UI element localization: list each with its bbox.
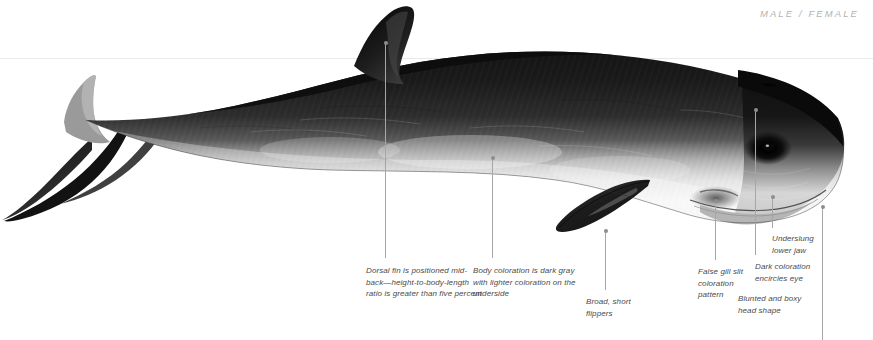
illustration-stage: MALE / FEMALE bbox=[0, 0, 873, 340]
eye bbox=[763, 142, 776, 151]
leader-dot bbox=[384, 41, 388, 45]
annotation-label-underslung-jaw: Underslung lower jaw bbox=[772, 233, 824, 256]
leader-dot bbox=[491, 156, 495, 160]
leader-line-body-coloration bbox=[492, 158, 493, 258]
leader-line-flippers bbox=[605, 231, 606, 290]
annotation-label-head-shape: Blunted and boxy head shape bbox=[738, 293, 818, 316]
leader-line-head-shape bbox=[822, 207, 823, 340]
leader-line-dorsal-fin bbox=[385, 43, 386, 258]
leader-dot bbox=[754, 108, 758, 112]
annotation-label-flippers: Broad, short flippers bbox=[586, 296, 658, 319]
leader-line-false-gill-slit bbox=[715, 201, 716, 260]
leader-dot bbox=[821, 205, 825, 209]
leader-dot bbox=[604, 229, 608, 233]
annotation-label-body-coloration: Body coloration is dark gray with lighte… bbox=[473, 265, 583, 300]
leader-dot bbox=[771, 195, 775, 199]
annotation-label-eye-coloration: Dark coloration encircles eye bbox=[755, 261, 819, 284]
leader-line-eye-coloration bbox=[755, 110, 756, 255]
annotation-label-dorsal-fin: Dorsal fin is positioned mid-back—height… bbox=[366, 265, 484, 300]
leader-line-underslung-jaw bbox=[772, 197, 773, 228]
eye-highlight bbox=[766, 145, 769, 147]
leader-dot bbox=[714, 199, 718, 203]
